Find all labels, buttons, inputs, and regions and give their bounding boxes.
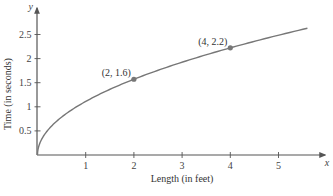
data-point	[131, 77, 136, 82]
y-tick-label: 1.5	[19, 77, 32, 88]
data-curve	[38, 28, 308, 155]
y-axis-title: Time (in seconds)	[2, 58, 14, 130]
y-tick-label: 2.5	[19, 29, 32, 40]
data-point	[228, 45, 233, 50]
x-variable-label: x	[324, 157, 330, 168]
data-point-label: (4, 2.2)	[198, 36, 227, 48]
x-tick-label: 5	[276, 160, 281, 171]
x-tick-label: 1	[83, 160, 88, 171]
x-tick-label: 3	[180, 160, 185, 171]
pendulum-time-chart: 12345 0.511.522.5 y x Length (in feet) T…	[0, 0, 333, 196]
y-tick-label: 1	[27, 101, 32, 112]
x-axis-title: Length (in feet)	[151, 173, 214, 185]
y-tick-label: 2	[27, 53, 32, 64]
data-point-label: (2, 1.6)	[102, 67, 131, 79]
x-tick-label: 4	[228, 160, 233, 171]
y-tick-label: 0.5	[19, 125, 32, 136]
x-tick-label: 2	[131, 160, 136, 171]
y-variable-label: y	[28, 1, 34, 12]
highlighted-points: (2, 1.6)(4, 2.2)	[102, 36, 233, 82]
